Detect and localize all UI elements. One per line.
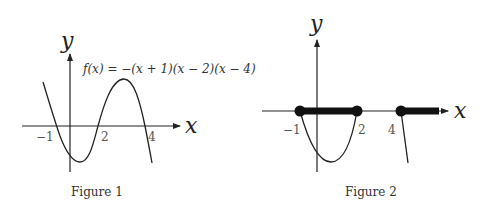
figure-2-caption: Figure 2: [345, 185, 397, 199]
figure-1-caption: Figure 1: [71, 185, 123, 199]
figure-2: x y −1 2 4 Figure 2: [262, 11, 467, 199]
cubic-curve: [43, 79, 152, 163]
tick-label-neg1: −1: [283, 123, 301, 137]
tick-label-2: 2: [358, 123, 366, 137]
highlight-interval-neg1-2: [300, 108, 357, 115]
point-4: [396, 106, 407, 117]
parabola-segment: [300, 111, 357, 162]
tick-label-4: 4: [148, 130, 156, 144]
x-axis-label: x: [454, 98, 467, 123]
x-axis-label: x: [185, 113, 198, 138]
highlight-interval-4-inf: [401, 108, 439, 115]
point-neg1: [295, 106, 306, 117]
function-formula: f(x) = −(x + 1)(x − 2)(x − 4): [82, 62, 256, 76]
y-axis-label: y: [60, 28, 74, 53]
figures-canvas: x y −1 2 4 f(x) = −(x + 1)(x − 2)(x − 4)…: [0, 0, 484, 201]
descending-segment: [401, 111, 408, 163]
tick-label-2: 2: [101, 130, 109, 144]
y-axis-label: y: [309, 11, 323, 36]
point-2: [352, 106, 363, 117]
tick-label-4: 4: [388, 123, 396, 137]
figure-1: x y −1 2 4 f(x) = −(x + 1)(x − 2)(x − 4)…: [22, 28, 256, 199]
tick-label-neg1: −1: [36, 130, 54, 144]
